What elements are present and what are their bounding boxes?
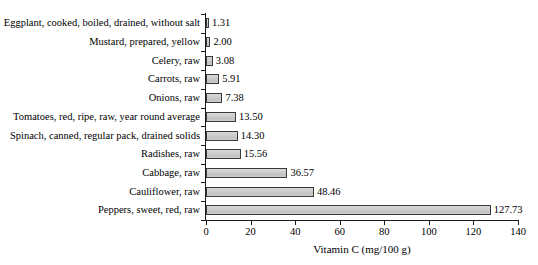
vitamin-c-bar-chart: Eggplant, cooked, boiled, drained, witho… <box>0 0 538 265</box>
bar <box>206 18 209 28</box>
category-label: Radishes, raw <box>0 148 200 159</box>
bar-value-label: 36.57 <box>290 167 314 178</box>
y-axis-tick <box>201 51 205 52</box>
x-axis-tick-label: 0 <box>203 226 208 238</box>
bar <box>206 187 314 197</box>
bar-value-label: 7.38 <box>225 92 243 103</box>
x-axis-tick <box>206 221 207 225</box>
y-axis-tick <box>201 164 205 165</box>
bar-value-label: 14.30 <box>241 130 265 141</box>
x-axis-tick-label: 100 <box>421 226 437 238</box>
y-axis-tick <box>201 182 205 183</box>
plot-area: 1.312.003.085.917.3813.5014.3015.5636.57… <box>206 14 518 220</box>
category-label: Eggplant, cooked, boiled, drained, witho… <box>0 17 200 28</box>
x-axis-tick-label: 140 <box>510 226 526 238</box>
category-label: Carrots, raw <box>0 73 200 84</box>
y-axis-tick <box>201 14 205 15</box>
x-axis-tick-label: 80 <box>379 226 390 238</box>
bar-value-label: 3.08 <box>216 55 234 66</box>
y-axis-tick <box>201 201 205 202</box>
bar <box>206 74 219 84</box>
bar-value-label: 127.73 <box>494 204 523 215</box>
bar <box>206 131 238 141</box>
bar <box>206 56 213 66</box>
y-axis-tick <box>201 145 205 146</box>
x-axis-tick-label: 20 <box>245 226 256 238</box>
x-axis-title: Vitamin C (mg/100 g) <box>206 243 518 256</box>
y-axis-tick <box>201 33 205 34</box>
bar-value-label: 1.31 <box>212 17 230 28</box>
y-axis-tick <box>201 89 205 90</box>
category-label: Spinach, canned, regular pack, drained s… <box>0 130 200 141</box>
bar <box>206 168 287 178</box>
bar <box>206 37 210 47</box>
bar-value-label: 13.50 <box>239 111 263 122</box>
y-axis-tick <box>201 126 205 127</box>
x-axis-tick <box>340 221 341 225</box>
x-axis-tick-label: 120 <box>466 226 482 238</box>
x-axis-tick <box>473 221 474 225</box>
category-label: Cabbage, raw <box>0 167 200 178</box>
bar-value-label: 15.56 <box>244 148 268 159</box>
x-axis-line <box>205 220 519 221</box>
category-label: Cauliflower, raw <box>0 186 200 197</box>
category-label: Onions, raw <box>0 92 200 103</box>
category-label: Celery, raw <box>0 55 200 66</box>
y-axis-tick <box>201 220 205 221</box>
x-axis-tick <box>384 221 385 225</box>
x-axis-tick <box>251 221 252 225</box>
y-axis-line <box>205 13 206 221</box>
bar-value-label: 48.46 <box>317 186 341 197</box>
x-axis-tick <box>429 221 430 225</box>
x-axis-tick-label: 60 <box>334 226 345 238</box>
category-label: Peppers, sweet, red, raw <box>0 204 200 215</box>
x-axis-tick <box>295 221 296 225</box>
y-axis-tick <box>201 108 205 109</box>
bar <box>206 112 236 122</box>
category-label: Mustard, prepared, yellow <box>0 36 200 47</box>
x-axis-tick <box>518 221 519 225</box>
bar-value-label: 2.00 <box>213 36 231 47</box>
bar <box>206 149 241 159</box>
bar <box>206 205 491 215</box>
x-axis-tick-label: 40 <box>290 226 301 238</box>
bar <box>206 93 222 103</box>
bar-value-label: 5.91 <box>222 73 240 84</box>
category-label: Tomatoes, red, ripe, raw, year round ave… <box>0 111 200 122</box>
y-axis-tick <box>201 70 205 71</box>
